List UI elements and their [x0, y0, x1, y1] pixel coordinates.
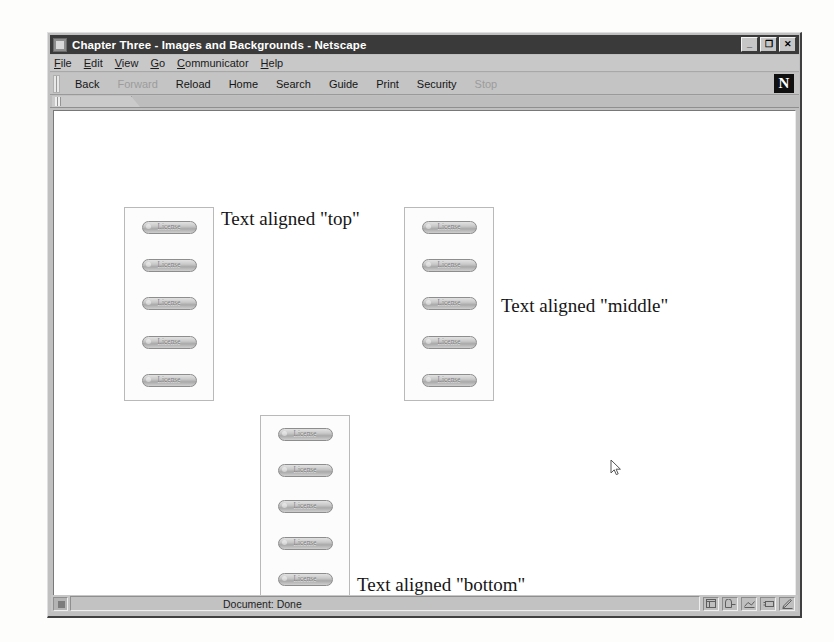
toolbar-button-home[interactable]: Home — [220, 76, 267, 92]
license-image[interactable]: License — [278, 428, 333, 441]
image-column-bottom: License License License License License — [260, 415, 350, 599]
menu-item-file[interactable]: File — [54, 57, 72, 69]
license-image[interactable]: License — [278, 573, 333, 586]
status-bar: Document: Done — [51, 595, 798, 612]
menu-rest-help: elp — [269, 57, 284, 69]
bookmarks-drag-grip[interactable] — [55, 97, 61, 106]
navigator-icon[interactable] — [703, 597, 719, 611]
license-image-label: License — [437, 339, 460, 347]
top-aligned-block: License License License License License — [124, 207, 214, 401]
navigation-toolbar: Back Forward Reload Home Search Guide Pr… — [50, 73, 799, 95]
license-image-label: License — [293, 430, 316, 438]
window-controls: _ ❐ ✕ — [741, 37, 796, 52]
license-image-label: License — [437, 377, 460, 385]
toolbar-button-guide[interactable]: Guide — [320, 76, 367, 92]
menu-rest-view: iew — [122, 57, 139, 69]
menu-item-go[interactable]: Go — [150, 57, 165, 69]
license-image[interactable]: License — [142, 336, 197, 349]
padlock-icon[interactable] — [53, 597, 68, 611]
toolbar-button-search[interactable]: Search — [267, 76, 320, 92]
license-image-label: License — [157, 339, 180, 347]
license-image-label: License — [437, 262, 460, 270]
menu-item-communicator[interactable]: Communicator — [177, 57, 249, 69]
license-image-label: License — [437, 300, 460, 308]
bookmarks-tab[interactable] — [52, 96, 132, 107]
menu-accel-go: G — [150, 57, 159, 69]
composer-icon[interactable] — [779, 597, 795, 611]
menu-accel-view: V — [115, 57, 122, 69]
component-bar — [703, 597, 795, 611]
title-bar: Chapter Three - Images and Backgrounds -… — [50, 35, 799, 54]
caption-middle-aligned: Text aligned "middle" — [497, 296, 668, 315]
menu-accel-file: F — [54, 57, 61, 69]
menu-rest-file: ile — [61, 57, 72, 69]
license-image[interactable]: License — [142, 297, 197, 310]
license-image-label: License — [293, 467, 316, 475]
toolbar-drag-grip[interactable] — [53, 75, 60, 93]
license-image[interactable]: License — [422, 336, 477, 349]
menu-item-view[interactable]: View — [115, 57, 139, 69]
toolbar-button-back[interactable]: Back — [66, 76, 108, 92]
toolbar-button-forward: Forward — [108, 76, 166, 92]
mouse-cursor-icon — [610, 459, 622, 477]
page-content-canvas: License License License License License … — [53, 110, 796, 599]
license-image[interactable]: License — [422, 221, 477, 234]
license-image[interactable]: License — [422, 259, 477, 272]
netscape-window-icon — [53, 38, 67, 52]
license-image[interactable]: License — [142, 259, 197, 272]
toolbar-button-reload[interactable]: Reload — [167, 76, 220, 92]
menu-bar: File Edit View Go Communicator Help — [50, 55, 799, 72]
license-image[interactable]: License — [278, 464, 333, 477]
menu-rest-go: o — [159, 57, 165, 69]
license-image[interactable]: License — [278, 537, 333, 550]
menu-item-edit[interactable]: Edit — [84, 57, 103, 69]
netscape-browser-window: Chapter Three - Images and Backgrounds -… — [47, 32, 802, 618]
license-image-label: License — [157, 300, 180, 308]
close-button[interactable]: ✕ — [779, 37, 796, 52]
menu-rest-communicator: ommunicator — [185, 57, 249, 69]
middle-aligned-block: License License License License License — [404, 207, 494, 401]
restore-button[interactable]: ❐ — [760, 37, 777, 52]
license-image[interactable]: License — [142, 374, 197, 387]
toolbar-button-security[interactable]: Security — [408, 76, 466, 92]
image-column-top: License License License License License — [124, 207, 214, 401]
license-image[interactable]: License — [142, 221, 197, 234]
caption-top-aligned: Text aligned "top" — [217, 209, 360, 228]
personal-toolbar-strip — [50, 96, 799, 108]
license-image[interactable]: License — [422, 297, 477, 310]
license-image-label: License — [157, 377, 180, 385]
mailbox-icon[interactable] — [722, 597, 738, 611]
license-image-label: License — [293, 576, 316, 584]
bottom-aligned-block: License License License License License — [260, 415, 350, 599]
image-column-middle: License License License License License — [404, 207, 494, 401]
license-image-label: License — [293, 540, 316, 548]
window-title: Chapter Three - Images and Backgrounds -… — [72, 39, 366, 51]
menu-accel-help: H — [261, 57, 269, 69]
license-image-label: License — [157, 223, 180, 231]
menu-accel-edit: E — [84, 57, 91, 69]
license-image[interactable]: License — [422, 374, 477, 387]
license-image-label: License — [157, 262, 180, 270]
status-message: Document: Done — [223, 598, 302, 610]
menu-rest-edit: dit — [91, 57, 103, 69]
address-book-icon[interactable] — [760, 597, 776, 611]
license-image[interactable]: License — [278, 500, 333, 513]
caption-bottom-aligned: Text aligned "bottom" — [353, 575, 525, 594]
newsgroup-icon[interactable] — [741, 597, 757, 611]
menu-accel-communicator: C — [177, 57, 185, 69]
status-text-area: Document: Done — [70, 596, 700, 611]
toolbar-button-stop: Stop — [466, 76, 507, 92]
netscape-logo-icon[interactable]: N — [774, 74, 794, 93]
toolbar-button-print[interactable]: Print — [367, 76, 408, 92]
minimize-button[interactable]: _ — [741, 37, 758, 52]
menu-item-help[interactable]: Help — [261, 57, 284, 69]
license-image-label: License — [437, 223, 460, 231]
license-image-label: License — [293, 503, 316, 511]
